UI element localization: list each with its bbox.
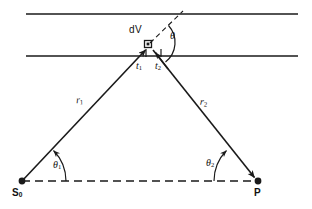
incident-ray-r1 (22, 50, 146, 181)
label-theta2-subscript: 2 (211, 161, 214, 168)
label-r2-subscript: 2 (204, 100, 208, 107)
label-theta2: θ2 (206, 158, 214, 169)
volume-element-inner-dot (147, 43, 150, 46)
label-t2-subscript: 2 (158, 64, 161, 71)
label-source-point: S0 (12, 188, 22, 199)
label-t1: t1 (136, 61, 142, 72)
label-r2: r2 (200, 97, 208, 109)
dashed-normal-ray (150, 11, 183, 43)
diagram-canvas (0, 0, 312, 209)
label-theta1-subscript: 1 (58, 163, 61, 170)
label-source-subscript: 0 (19, 191, 23, 198)
detector-point-dot (255, 178, 262, 185)
label-r1-subscript: 1 (80, 98, 84, 105)
scattered-ray-r2 (153, 50, 255, 178)
label-volume-element: dV (129, 25, 142, 35)
source-point-dot (19, 178, 26, 185)
label-t1-subscript: 1 (139, 64, 142, 71)
label-theta1: θ1 (53, 160, 61, 171)
angle-arc-theta2 (214, 151, 227, 182)
label-theta: θ (170, 31, 175, 41)
label-source-base: S (12, 187, 19, 198)
label-detector-point: P (254, 188, 261, 198)
label-t2: t2 (155, 61, 161, 72)
physics-diagram-figure: dV θ t1 t2 r1 r2 θ1 θ2 S0 P (0, 0, 312, 209)
label-r1: r1 (76, 95, 84, 106)
